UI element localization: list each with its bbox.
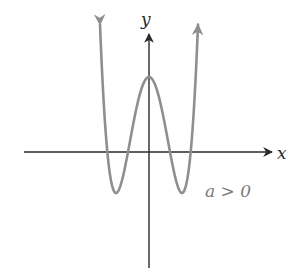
quartic-graph: x y a > 0 — [0, 0, 298, 272]
condition-annotation: a > 0 — [205, 181, 251, 201]
y-axis-label: y — [140, 9, 151, 29]
x-axis-label: x — [277, 143, 287, 163]
